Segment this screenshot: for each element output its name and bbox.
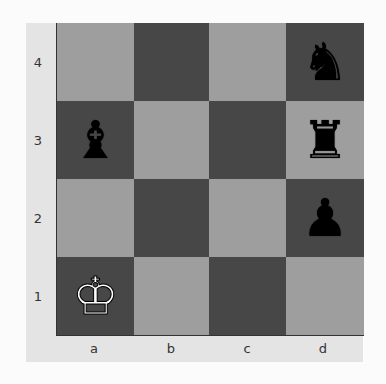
square-a1[interactable]: ♔ [57,257,134,335]
square-b1[interactable] [134,257,209,335]
square-b4[interactable] [134,23,209,101]
square-b3[interactable] [134,101,209,179]
square-c3[interactable] [209,101,286,179]
square-c1[interactable] [209,257,286,335]
rank-label-4: 4 [30,55,46,70]
file-label-d: d [313,341,333,356]
square-d3[interactable]: ♜ [286,101,364,179]
black-bishop-icon[interactable]: ♝ [72,114,119,166]
square-c2[interactable] [209,179,286,257]
file-label-c: c [237,341,257,356]
square-d2[interactable]: ♟ [286,179,364,257]
square-d1[interactable] [286,257,364,335]
square-d4[interactable]: ♞ [286,23,364,101]
rank-label-2: 2 [30,211,46,226]
file-label-a: a [84,341,104,356]
rank-label-3: 3 [30,133,46,148]
square-a2[interactable] [57,179,134,257]
black-rook-icon[interactable]: ♜ [302,114,349,166]
square-a4[interactable] [57,23,134,101]
black-pawn-icon[interactable]: ♟ [302,192,349,244]
file-label-b: b [161,341,181,356]
square-c4[interactable] [209,23,286,101]
rank-label-1: 1 [30,289,46,304]
black-knight-icon[interactable]: ♞ [302,36,349,88]
square-a3[interactable]: ♝ [57,101,134,179]
white-king-icon[interactable]: ♔ [72,270,119,322]
chess-board: ♞ ♝ ♜ ♟ ♔ [56,23,364,336]
square-b2[interactable] [134,179,209,257]
